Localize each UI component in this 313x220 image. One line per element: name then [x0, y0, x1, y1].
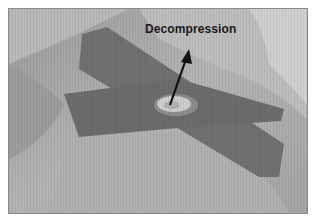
photo-frame: [8, 8, 308, 214]
decompression-label: Decompression: [145, 22, 236, 36]
kinesiology-tape-photo: [9, 9, 307, 213]
